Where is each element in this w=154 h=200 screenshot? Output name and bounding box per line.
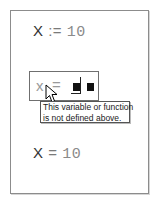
tooltip-line-2: is not defined above. bbox=[43, 113, 129, 124]
definition-value: 10 bbox=[67, 24, 86, 41]
evaluation-input-region[interactable]: x = bbox=[29, 71, 99, 101]
result-region[interactable]: X = 10 bbox=[33, 144, 81, 163]
definition-variable: X bbox=[33, 22, 44, 39]
error-tooltip: This variable or function is not defined… bbox=[40, 101, 130, 123]
undefined-variable[interactable]: x bbox=[36, 77, 44, 94]
placeholder-value[interactable] bbox=[73, 83, 80, 91]
placeholder-unit[interactable] bbox=[87, 83, 94, 91]
tooltip-line-1: This variable or function bbox=[43, 102, 129, 113]
result-operator: = bbox=[48, 144, 57, 161]
edit-cursor-vertical bbox=[80, 77, 81, 94]
definition-operator: := bbox=[48, 22, 62, 39]
edit-cursor-underline bbox=[71, 93, 81, 94]
definition-region[interactable]: X := 10 bbox=[33, 22, 86, 41]
result-value: 10 bbox=[62, 146, 81, 163]
result-variable: X bbox=[33, 144, 44, 161]
